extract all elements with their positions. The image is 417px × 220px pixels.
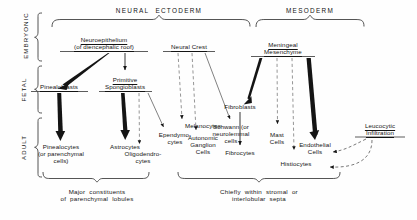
germ-layer-brace-neural-ectoderm <box>52 15 250 27</box>
arrowhead-endothelial <box>309 130 319 140</box>
edge-neuralcrest-schwann <box>205 53 230 119</box>
caption-parenchymal-lobules: Major constituents of parenchymal lobule… <box>60 188 133 203</box>
edge-mesenchyme-endothelial <box>307 58 318 136</box>
edge-neuroepithelium-pinealoblasts <box>63 53 110 87</box>
edge-spongioblasts-oligodendrocytes <box>139 93 140 144</box>
bottom-brace-stromal <box>178 172 340 182</box>
bottom-brace-parenchymal <box>43 172 149 182</box>
stage-label-embryonic: EMBRYONIC <box>22 5 29 67</box>
edge-leucocytic-endothelial <box>333 139 366 152</box>
edge-mesenchyme-fibroblasts <box>247 58 262 100</box>
edge-spongioblasts-astrocytes <box>121 93 127 130</box>
edge-pinealoblasts-pinealocytes <box>57 93 63 134</box>
stage-brace-embryonic <box>35 13 42 61</box>
stage-label-adult: ADULT <box>20 127 27 169</box>
edge-mesenchyme-mastcells <box>277 58 278 124</box>
germ-layer-neural-ectoderm: NEURAL ECTODERM <box>116 7 203 14</box>
edge-mesenchyme-histiocytes <box>292 58 294 150</box>
caption-stromal-septa: Chiefly within stromal or interlobular s… <box>220 188 298 203</box>
stage-brace-adult <box>35 118 42 177</box>
edge-spongioblasts-ependymocytes <box>148 93 164 127</box>
stage-brace-fetal <box>35 66 42 113</box>
arrowhead-pinealocytes-tip <box>56 131 66 141</box>
germ-layer-mesoderm: MESODERM <box>286 7 334 14</box>
edge-leucocytic-histiocytes <box>330 140 372 167</box>
diagram-canvas <box>0 0 417 220</box>
arrowhead-astrocytes <box>120 130 130 140</box>
stage-label-fetal: FETAL <box>20 70 27 110</box>
germ-layer-brace-mesoderm <box>256 15 364 27</box>
lineage-diagram: NEURAL ECTODERM MESODERM EMBRYONIC FETAL… <box>0 0 417 220</box>
edge-neuralcrest-autonomic <box>192 53 196 130</box>
edge-neuralcrest-melanocytes <box>178 53 182 119</box>
